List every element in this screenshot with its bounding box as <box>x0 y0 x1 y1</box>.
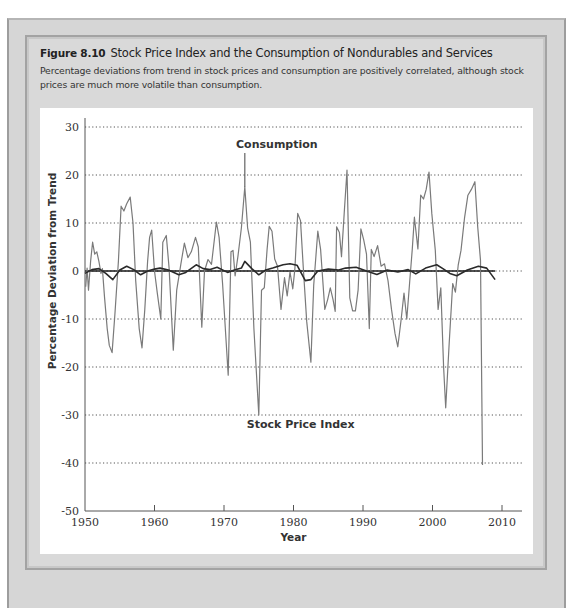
y-tick-label: 30 <box>65 121 79 134</box>
y-tick-label: 10 <box>65 217 79 230</box>
x-tick-label: 1990 <box>349 516 377 529</box>
axes: -50-40-30-20-100102030195019601970198019… <box>61 118 522 529</box>
figure-title: Figure 8.10Stock Price Index and the Con… <box>40 46 493 60</box>
x-tick-label: 1960 <box>141 516 169 529</box>
y-tick-label: -40 <box>61 457 79 470</box>
x-axis-title: Year <box>279 531 307 543</box>
x-tick-label: 2000 <box>419 516 447 529</box>
x-tick-label: 1950 <box>71 516 99 529</box>
figure-title-text: Stock Price Index and the Consumption of… <box>110 46 492 60</box>
y-tick-label: 0 <box>72 265 79 278</box>
stock-price-index-label: Stock Price Index <box>247 418 355 431</box>
gridlines <box>85 127 522 463</box>
y-tick-label: -10 <box>61 313 79 326</box>
figure-number: Figure 8.10 <box>40 47 105 59</box>
figure-caption: Percentage deviations from trend in stoc… <box>40 64 530 92</box>
line-chart: -50-40-30-20-100102030195019601970198019… <box>40 108 533 554</box>
x-tick-label: 2010 <box>488 516 516 529</box>
x-tick-label: 1970 <box>210 516 238 529</box>
y-axis-title: Percentage Deviation from Trend <box>46 173 58 369</box>
chart-panel: -50-40-30-20-100102030195019601970198019… <box>40 108 533 554</box>
y-tick-label: 20 <box>65 169 79 182</box>
consumption-label: Consumption <box>236 138 318 151</box>
x-tick-label: 1980 <box>280 516 308 529</box>
y-tick-label: -30 <box>61 409 79 422</box>
y-tick-label: -20 <box>61 361 79 374</box>
